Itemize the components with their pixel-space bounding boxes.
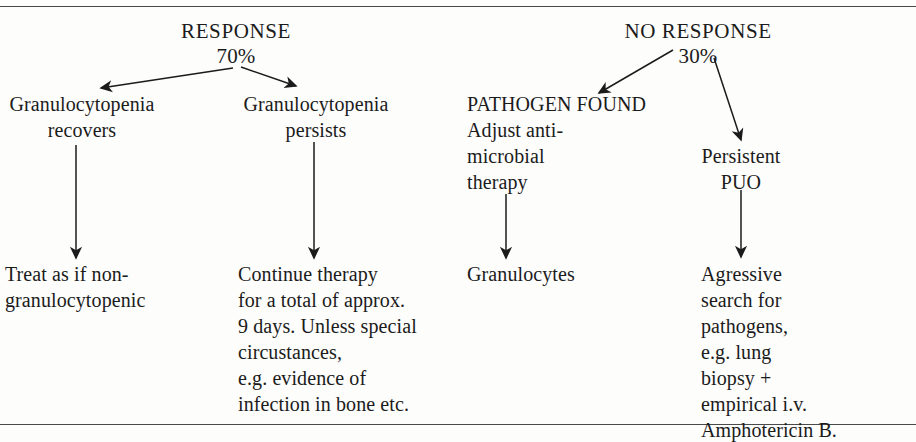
node-response-label: RESPONSE: [116, 18, 356, 45]
node-granulocytes: Granulocytes: [467, 261, 637, 287]
arrow-noresponse-to-puo: [714, 58, 741, 140]
flowchart-page: RESPONSE 70% NO RESPONSE 30% Granulocyto…: [0, 0, 916, 442]
horizontal-rule-top: [0, 6, 916, 7]
node-response-percent: 70%: [116, 43, 356, 70]
arrow-response-to-recovers: [101, 68, 233, 88]
node-persistent-puo: Persistent PUO: [683, 143, 799, 195]
node-pathogen-found: PATHOGEN FOUND Adjust anti- microbial th…: [467, 91, 687, 195]
node-granulocytopenia-persists: Granulocytopenia persists: [236, 91, 396, 143]
node-no-response-percent: 30%: [582, 43, 814, 70]
node-treat-as-if-non-granulocytopenic: Treat as if non- granulocytopenic: [5, 261, 220, 313]
node-continue-therapy: Continue therapy for a total of approx. …: [238, 261, 453, 417]
node-no-response-label: NO RESPONSE: [582, 18, 814, 45]
node-granulocytopenia-recovers: Granulocytopenia recovers: [2, 91, 162, 143]
node-agressive-search: Agressive search for pathogens, e.g. lun…: [701, 261, 881, 442]
